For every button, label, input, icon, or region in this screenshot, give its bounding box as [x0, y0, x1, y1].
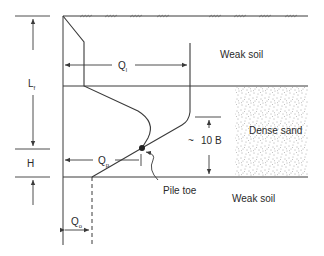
- top-layer-label: Weak soil: [220, 49, 263, 60]
- pile-toe-marker: [139, 145, 145, 151]
- reduced-load-label: Qo: [71, 216, 83, 229]
- load-transfer-curves: [63, 16, 190, 177]
- embedment-label: Lf: [28, 78, 36, 91]
- ground-surface: [63, 15, 308, 17]
- point-load-label: Qp: [98, 155, 110, 168]
- dense-sand-label: Dense sand: [249, 125, 302, 136]
- pile-toe-label: Pile toe: [163, 185, 197, 196]
- pile-toe-leader: [146, 152, 158, 180]
- dimension-lines: [15, 16, 50, 205]
- shaft-load-curve: [63, 16, 150, 148]
- influence-label: 10 B: [201, 135, 222, 146]
- shaft-load-label: Ql: [118, 60, 127, 73]
- bearing-label: H: [27, 158, 34, 169]
- bottom-layer-label: Weak soil: [232, 193, 275, 204]
- pile-load-diagram: Weak soil Dense sand Weak soil Lf H Ql Q…: [0, 0, 324, 256]
- influence-tilde: ~: [188, 135, 194, 146]
